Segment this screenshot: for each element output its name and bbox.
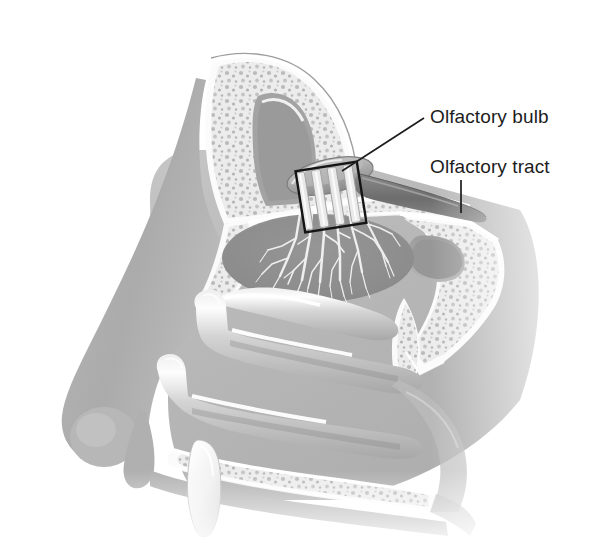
label-olfactory-tract: Olfactory tract <box>430 156 550 178</box>
bottom-fade <box>0 470 601 552</box>
label-olfactory-bulb: Olfactory bulb <box>430 106 549 128</box>
right-fade <box>430 0 601 552</box>
anatomy-illustration <box>0 0 601 552</box>
figure-root: Olfactory bulb Olfactory tract <box>0 0 601 552</box>
